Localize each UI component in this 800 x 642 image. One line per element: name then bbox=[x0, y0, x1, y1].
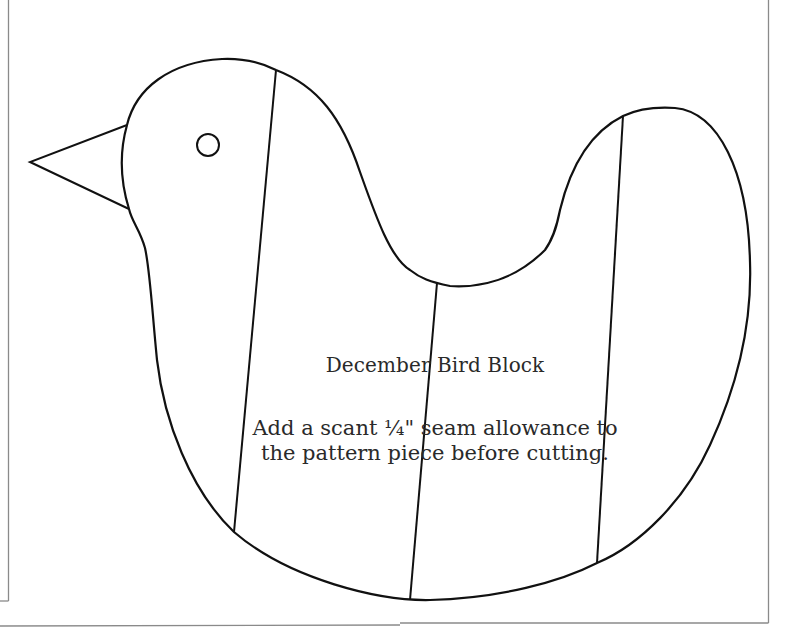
border-bottom bbox=[0, 625, 400, 626]
page-border bbox=[0, 0, 769, 626]
beak bbox=[30, 125, 129, 209]
instructions-line-1: Add a scant ¼" seam allowance to bbox=[200, 416, 670, 441]
seam-allowance-instructions: Add a scant ¼" seam allowance to the pat… bbox=[200, 416, 670, 466]
pattern-page: December Bird Block Add a scant ¼" seam … bbox=[0, 0, 800, 642]
bird-outline bbox=[122, 59, 750, 600]
seam-line-3 bbox=[597, 116, 623, 563]
pattern-title: December Bird Block bbox=[200, 353, 670, 377]
bird-pattern-drawing bbox=[0, 0, 800, 642]
eye bbox=[197, 134, 219, 156]
instructions-line-2: the pattern piece before cutting. bbox=[200, 441, 670, 466]
